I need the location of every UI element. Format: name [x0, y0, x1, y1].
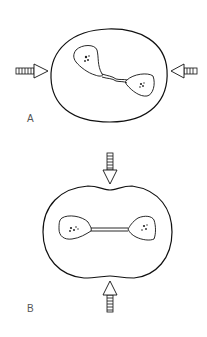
panel-label-b: B [27, 303, 34, 314]
panel-a: A [16, 29, 197, 124]
cell-outline-a [51, 29, 167, 122]
arrow-left-icon [171, 64, 197, 78]
arrow-up-icon [103, 281, 117, 312]
panel-label-a: A [27, 113, 34, 124]
arrow-right-icon [16, 64, 48, 78]
arrow-down-icon [103, 153, 117, 184]
diagram-canvas: A B [0, 0, 207, 337]
panel-b: B [27, 153, 172, 314]
cell-outline-b [43, 186, 172, 278]
